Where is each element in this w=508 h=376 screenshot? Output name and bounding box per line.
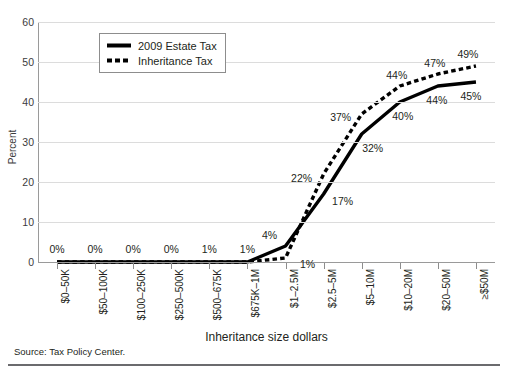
x-tick-label-3: $250–500K xyxy=(175,269,185,320)
data-label-0: 0% xyxy=(49,244,64,255)
data-label-14: 47% xyxy=(424,58,445,69)
source-note: Source: Tax Policy Center. xyxy=(14,346,125,357)
data-label-9: 17% xyxy=(332,196,353,207)
legend-item-estate-tax: 2009 Estate Tax xyxy=(106,38,217,53)
x-tick-label-1: $50–100K xyxy=(99,269,109,315)
legend-label-inheritance-tax: Inheritance Tax xyxy=(138,55,212,67)
gridline-30 xyxy=(38,142,495,143)
gridline-10 xyxy=(38,222,495,223)
x-tick-label-2: $100–250K xyxy=(137,269,147,320)
x-tick-label-6: $1–2.5M xyxy=(290,269,300,308)
legend-label-estate-tax: 2009 Estate Tax xyxy=(138,40,217,52)
gridline-20 xyxy=(38,182,495,183)
x-tick-label-4: $500–675K xyxy=(213,269,223,320)
y-tick-label-10: 10 xyxy=(4,217,34,228)
chart-legend: 2009 Estate Tax Inheritance Tax xyxy=(99,33,226,73)
data-label-5: 1% xyxy=(240,244,255,255)
x-tick-label-7: $2.5–5M xyxy=(328,269,338,308)
x-tick-label-8: $5–10M xyxy=(366,269,376,305)
x-tick-label-0: $0–50K xyxy=(61,269,71,303)
x-tick-label-11: ≥$50M xyxy=(480,269,490,300)
data-label-11: 32% xyxy=(362,143,383,154)
chart-figure: 0102030405060 Percent 0%0%0%0%1%1%4%1%22… xyxy=(0,0,508,376)
data-label-16: 49% xyxy=(457,49,478,60)
dashed-line-swatch-icon xyxy=(106,55,132,66)
y-tick-label-40: 40 xyxy=(4,97,34,108)
legend-item-inheritance-tax: Inheritance Tax xyxy=(106,53,217,68)
data-label-3: 0% xyxy=(164,244,179,255)
x-axis-tick-labels: $0–50K$50–100K$100–250K$250–500K$500–675… xyxy=(38,269,495,327)
data-label-6: 4% xyxy=(262,230,277,241)
x-tick-label-9: $10–20M xyxy=(404,269,414,311)
x-axis-title: Inheritance size dollars xyxy=(38,330,495,344)
data-label-4: 1% xyxy=(202,244,217,255)
y-tick-label-50: 50 xyxy=(4,57,34,68)
data-label-1: 0% xyxy=(88,244,103,255)
data-label-15: 44% xyxy=(426,95,447,106)
data-label-17: 45% xyxy=(460,91,481,102)
data-label-8: 22% xyxy=(291,173,312,184)
gridline-60 xyxy=(38,22,495,23)
solid-line-swatch-icon xyxy=(106,40,132,51)
y-tick-label-60: 60 xyxy=(4,17,34,28)
y-axis-title: Percent xyxy=(8,112,18,182)
y-tick-label-0: 0 xyxy=(4,257,34,268)
data-label-12: 44% xyxy=(386,70,407,81)
x-tick-label-10: $20–50M xyxy=(442,269,452,311)
data-label-10: 37% xyxy=(330,112,351,123)
data-label-2: 0% xyxy=(126,244,141,255)
x-tick-label-5: $675K–1M xyxy=(251,269,261,317)
bottom-divider xyxy=(8,364,500,366)
data-label-13: 40% xyxy=(392,111,413,122)
